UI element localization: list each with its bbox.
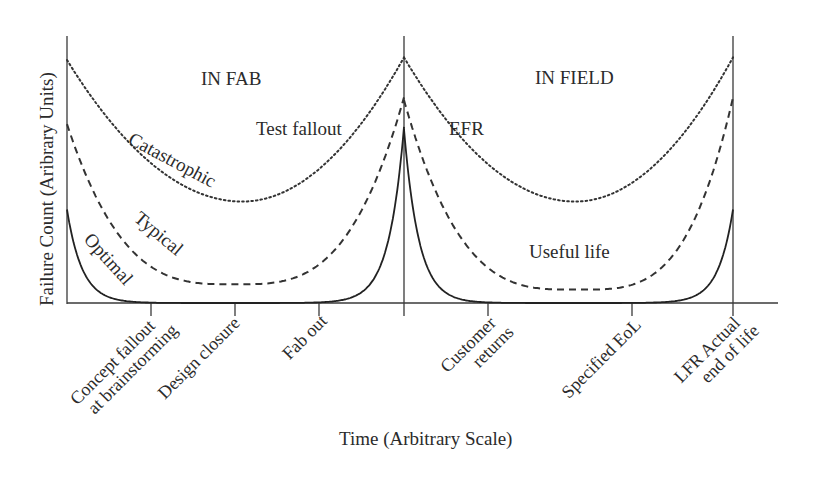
series-typical — [67, 97, 733, 289]
y-axis-label: Failure Count (Aribrary Units) — [36, 72, 58, 306]
annotation-test-fallout: Test fallout — [256, 118, 342, 139]
tick-label-eol: Specified EoL — [558, 315, 645, 402]
series-catastrophic — [67, 57, 733, 201]
region-in-fab: IN FAB — [201, 68, 261, 89]
bathtub-chart: Failure Count (Aribrary Units) IN FAB IN… — [0, 0, 813, 477]
annotation-useful-life: Useful life — [529, 241, 610, 262]
region-in-field: IN FIELD — [535, 67, 614, 88]
x-axis-label: Time (Arbitrary Scale) — [339, 428, 512, 450]
annotation-efr: EFR — [449, 118, 484, 139]
tick-label-fabout: Fab out — [278, 311, 331, 364]
label-catastrophic: Catastrophic — [125, 128, 220, 192]
label-typical: Typical — [130, 207, 187, 260]
